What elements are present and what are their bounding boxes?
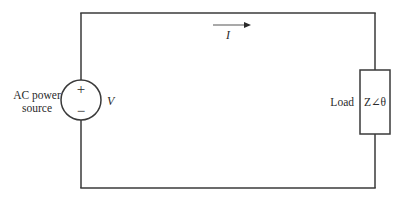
circuit-diagram: + − AC power source V I Load Z∠θ	[0, 0, 406, 200]
arrow-right-icon	[244, 22, 251, 28]
source-label-line2: source	[22, 102, 52, 114]
current-indicator: I	[213, 22, 251, 42]
source-minus-sign: −	[77, 103, 85, 119]
current-symbol: I	[225, 28, 231, 42]
source-plus-sign: +	[77, 81, 85, 97]
voltage-symbol: V	[107, 94, 116, 108]
load: Load Z∠θ	[330, 70, 390, 134]
ac-source: + − AC power source V	[13, 80, 116, 120]
source-label-line1: AC power	[13, 89, 61, 102]
load-label: Load	[330, 96, 354, 108]
load-impedance: Z∠θ	[364, 96, 387, 108]
